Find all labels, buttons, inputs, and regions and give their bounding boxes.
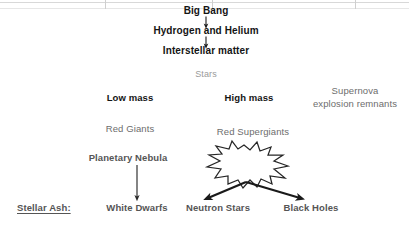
node-big-bang: Big Bang bbox=[184, 6, 229, 17]
grid-vertical-line-3 bbox=[355, 0, 356, 9]
arrow-supernova-to-black-holes bbox=[246, 182, 300, 198]
node-supernova-remnants-line2: explosion remnants bbox=[313, 99, 397, 109]
node-high-mass: High mass bbox=[225, 93, 274, 103]
node-red-supergiants: Red Supergiants bbox=[217, 127, 289, 137]
node-white-dwarfs: White Dwarfs bbox=[106, 203, 167, 213]
node-supernova-remnants-line1: Supernova bbox=[332, 86, 379, 96]
node-stellar-ash-label: Stellar Ash: bbox=[17, 203, 71, 213]
node-planetary-nebula: Planetary Nebula bbox=[89, 153, 168, 163]
node-hydrogen-and-helium: Hydrogen and Helium bbox=[153, 26, 258, 37]
node-supernova: Supernova bbox=[222, 162, 269, 172]
node-stars: Stars bbox=[195, 70, 217, 79]
stellar-evolution-diagram: Big Bang Hydrogen and Helium Interstella… bbox=[0, 0, 409, 232]
grid-horizontal-line-top bbox=[0, 2, 409, 3]
grid-vertical-line-1 bbox=[105, 0, 106, 9]
node-interstellar-matter: Interstellar matter bbox=[163, 46, 249, 57]
node-neutron-stars: Neutron Stars bbox=[186, 203, 250, 213]
node-red-giants: Red Giants bbox=[106, 124, 155, 134]
node-low-mass: Low mass bbox=[107, 93, 154, 103]
node-black-holes: Black Holes bbox=[284, 203, 339, 213]
arrow-supernova-to-neutron-stars bbox=[208, 182, 246, 198]
